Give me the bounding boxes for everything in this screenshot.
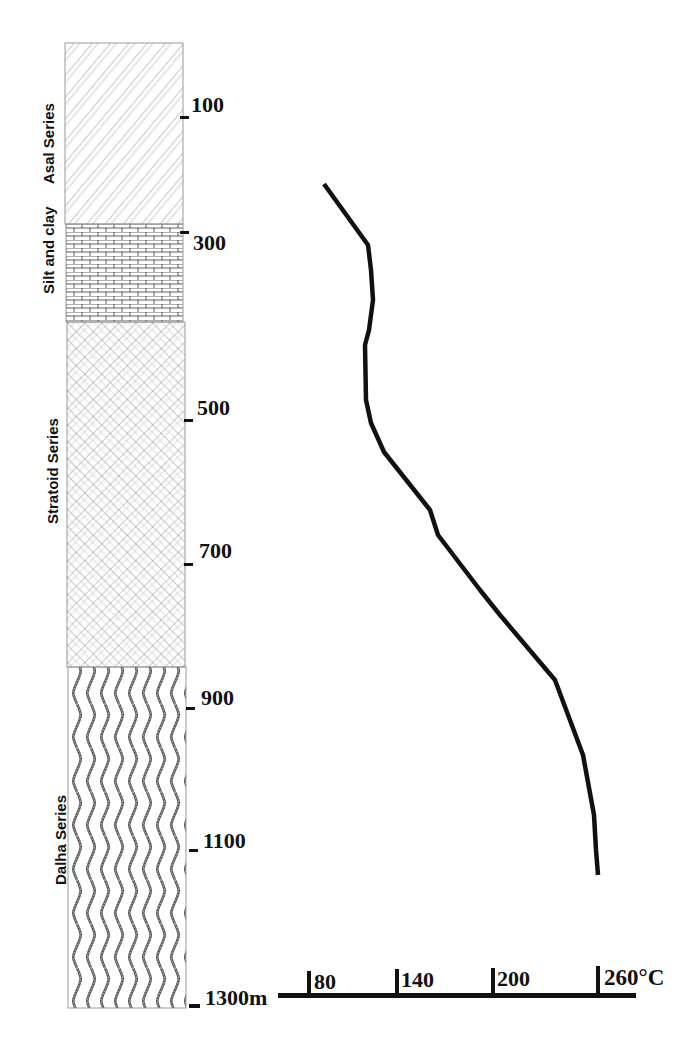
- depth-tick-1300m: 1300m: [205, 985, 267, 1010]
- geothermal-diagram: Asal Series Silt and clay Stratoid Serie…: [0, 0, 696, 1045]
- temp-tick-200: 200: [497, 966, 530, 991]
- temperature-profile-curve: [324, 184, 598, 875]
- layer-dalha-series: [68, 667, 186, 1008]
- depth-axis: 100 300 500 700 900 1100 1300m: [180, 92, 267, 1010]
- label-stratoid-series: Stratoid Series: [44, 418, 61, 524]
- temp-tick-80: 80: [314, 969, 336, 994]
- temp-tick-260: 260°C: [604, 965, 664, 990]
- depth-tick-900: 900: [201, 685, 234, 710]
- depth-tick-700: 700: [199, 538, 232, 563]
- depth-tick-1100: 1100: [203, 828, 246, 853]
- stratigraphic-column: [65, 43, 186, 1008]
- layer-stratoid-series: [67, 322, 185, 667]
- depth-tick-100: 100: [191, 92, 224, 117]
- depth-tick-500: 500: [197, 395, 230, 420]
- label-asal-series: Asal Series: [40, 103, 57, 184]
- label-dalha-series: Dalha Series: [52, 795, 69, 885]
- temperature-axis: 80 140 200 260°C: [278, 965, 664, 998]
- depth-tick-300: 300: [193, 230, 226, 255]
- label-silt-and-clay: Silt and clay: [40, 206, 57, 294]
- temp-tick-140: 140: [401, 967, 434, 992]
- layer-asal-series: [65, 43, 183, 224]
- layer-silt-and-clay: [66, 224, 183, 322]
